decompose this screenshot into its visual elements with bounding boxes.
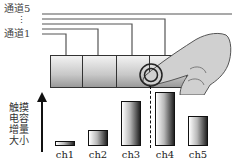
touch-position-dashed-line [150, 86, 151, 148]
bar-ch1 [55, 141, 75, 146]
y-axis-label-line-3: 增量 [7, 124, 31, 135]
y-axis-label-line-1: 触摸 [7, 102, 31, 113]
y-axis-label-line-4: 大小 [7, 135, 31, 146]
x-label-ch2: ch2 [83, 149, 113, 160]
up-arrow-icon [36, 92, 48, 154]
bar-ch3 [121, 101, 141, 146]
bar-ch5 [188, 116, 208, 146]
y-axis-label-line-2: 电容 [7, 113, 31, 124]
touch-ripple-icon [136, 60, 166, 90]
electrode-pad-2 [82, 55, 120, 88]
x-label-ch3: ch3 [116, 149, 146, 160]
x-label-ch1: ch1 [50, 149, 80, 160]
x-label-ch5: ch5 [183, 149, 213, 160]
x-label-ch4: ch4 [150, 149, 180, 160]
bar-ch4 [155, 92, 175, 146]
bar-ch2 [88, 130, 108, 146]
